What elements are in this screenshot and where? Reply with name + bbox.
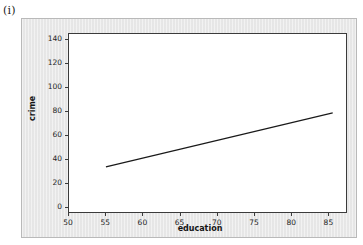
y-tick-label: 140: [34, 35, 62, 43]
y-tick-label: 60: [34, 131, 62, 139]
x-tick-label: 70: [212, 219, 222, 227]
y-tick-mark: [65, 159, 68, 160]
y-tick-mark: [65, 183, 68, 184]
y-tick-mark: [65, 207, 68, 208]
x-tick-mark: [328, 213, 329, 216]
series-line-crime-vs-education: [69, 34, 346, 212]
x-tick-label: 65: [175, 219, 185, 227]
x-tick-mark: [142, 213, 143, 216]
x-tick-mark: [105, 213, 106, 216]
x-tick-label: 75: [249, 219, 259, 227]
y-tick-mark: [65, 135, 68, 136]
y-tick-mark: [65, 111, 68, 112]
x-tick-label: 55: [100, 219, 110, 227]
y-tick-label: 20: [34, 179, 62, 187]
x-axis-title: education: [44, 225, 356, 233]
x-tick-label: 80: [286, 219, 296, 227]
y-tick-label: 120: [34, 59, 62, 67]
x-tick-label: 85: [324, 219, 334, 227]
x-tick-mark: [291, 213, 292, 216]
chart-panel: crime education 020406080100120140 50556…: [21, 18, 357, 238]
series-0-line: [106, 113, 333, 167]
y-tick-mark: [65, 63, 68, 64]
x-tick-mark: [254, 213, 255, 216]
y-tick-label: 100: [34, 83, 62, 91]
plot-area: [69, 34, 346, 212]
x-tick-mark: [68, 213, 69, 216]
y-tick-label: 0: [34, 203, 62, 211]
x-tick-label: 60: [138, 219, 148, 227]
x-tick-label: 50: [63, 219, 73, 227]
x-tick-mark: [180, 213, 181, 216]
y-tick-mark: [65, 87, 68, 88]
y-tick-label: 40: [34, 155, 62, 163]
y-tick-mark: [65, 39, 68, 40]
y-tick-label: 80: [34, 107, 62, 115]
x-tick-mark: [217, 213, 218, 216]
axes-frame: [68, 33, 347, 213]
figure-caption: (i): [3, 4, 16, 17]
